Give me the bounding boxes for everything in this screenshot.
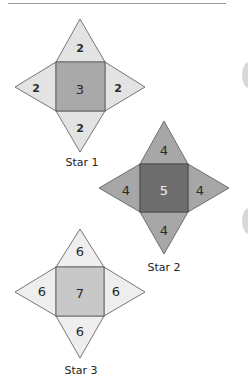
star-2-left-point (99, 164, 140, 212)
star-1-left-value: 2 (32, 82, 40, 95)
star-3-right-point (104, 267, 145, 316)
star-2-right-point (188, 164, 229, 212)
star-2-left-value: 4 (122, 183, 130, 198)
star-3: 6 6 7 6 6 (15, 229, 145, 358)
stars-diagram: 2 2 3 2 2 4 4 5 4 4 6 6 7 6 6 (0, 0, 248, 384)
star-2-top-value: 4 (160, 143, 168, 158)
star-2-center-value: 5 (160, 183, 168, 198)
star-1-center-value: 3 (76, 82, 84, 97)
star-3-top-value: 6 (76, 244, 84, 259)
star-1: 2 2 3 2 2 (15, 19, 145, 152)
star-2-right-value: 4 (196, 183, 204, 198)
star-1-top-point (56, 19, 105, 62)
star-1-bottom-value: 2 (76, 122, 84, 135)
star-3-caption: Star 3 (64, 364, 97, 377)
star-2-caption: Star 2 (147, 261, 180, 274)
star-3-left-value: 6 (38, 284, 46, 299)
star-2: 4 4 5 4 4 (99, 121, 229, 254)
star-1-top-value: 2 (76, 42, 84, 55)
star-3-center-value: 7 (76, 286, 84, 301)
star-2-bottom-value: 4 (160, 223, 168, 238)
star-1-right-point (105, 62, 145, 111)
star-3-bottom-value: 6 (76, 324, 84, 339)
star-3-left-point (15, 267, 56, 316)
star-3-right-value: 6 (112, 284, 120, 299)
star-1-caption: Star 1 (65, 156, 98, 169)
star-1-right-value: 2 (114, 82, 122, 95)
